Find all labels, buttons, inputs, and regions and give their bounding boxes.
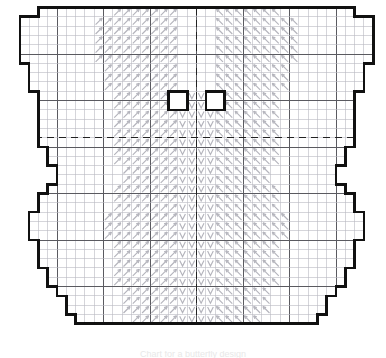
chart-canvas (0, 0, 386, 358)
chart-caption: Chart for a butterfly design (0, 351, 386, 358)
butterfly-chart: Chart for a butterfly design (0, 0, 386, 358)
